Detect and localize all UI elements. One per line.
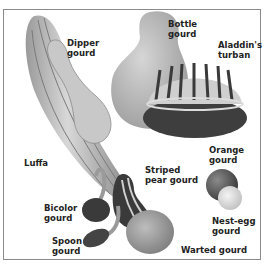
label-luffa: Luffa (24, 158, 48, 168)
label-nest-egg-gourd: Nest-egg gourd (212, 216, 255, 236)
nest-egg-gourd (218, 186, 242, 210)
label-bicolor-gourd: Bicolor gourd (44, 203, 77, 223)
label-aladdins-turban: Aladdin's turban (218, 40, 262, 60)
label-warted-gourd: Warted gourd (181, 245, 247, 255)
label-dipper-gourd: Dipper gourd (67, 38, 99, 58)
label-spoon-gourd: Spoon gourd (52, 236, 82, 256)
aladdins-turban (143, 63, 247, 138)
label-orange-gourd: Orange gourd (209, 145, 244, 165)
label-striped-pear-gourd: Striped pear gourd (145, 165, 198, 185)
warted-gourd (126, 210, 174, 254)
label-bottle-gourd: Bottle gourd (168, 19, 197, 39)
